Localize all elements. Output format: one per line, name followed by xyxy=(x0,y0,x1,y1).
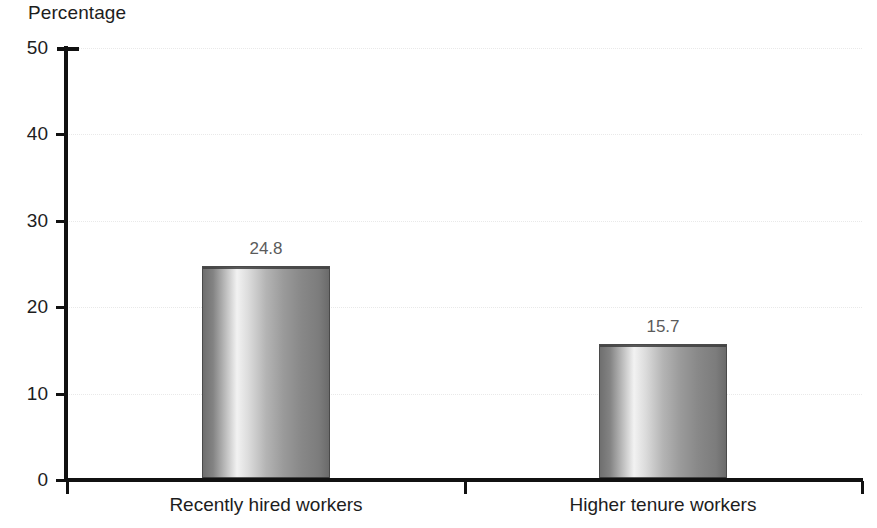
gridline xyxy=(67,307,862,308)
bar-top-edge xyxy=(203,267,329,269)
bar xyxy=(202,266,330,480)
x-axis-category-label: Higher tenure workers xyxy=(483,493,843,517)
y-axis-tick xyxy=(56,306,68,309)
gridline xyxy=(67,48,862,49)
x-axis-category-label: Recently hired workers xyxy=(86,493,446,517)
y-axis-tick-label: 20 xyxy=(27,297,48,316)
y-axis-line xyxy=(64,46,68,482)
gridline xyxy=(67,394,862,395)
plot-area xyxy=(67,48,862,480)
y-axis-tick-labels: 01020304050 xyxy=(0,0,48,528)
y-axis-tick-label: 40 xyxy=(27,124,48,143)
y-axis-tick-label: 10 xyxy=(27,384,48,403)
y-axis-tick xyxy=(56,220,68,223)
bar-value-label: 24.8 xyxy=(206,239,326,259)
x-axis-tick xyxy=(66,481,69,494)
y-axis-tick-label: 50 xyxy=(27,38,48,57)
y-axis-tick-label: 0 xyxy=(37,470,48,489)
x-axis-tick xyxy=(464,481,467,494)
y-axis-tick-label: 30 xyxy=(27,211,48,230)
y-axis-tick xyxy=(56,393,68,396)
bar xyxy=(599,344,727,480)
bar-top-edge xyxy=(600,345,726,347)
gridline xyxy=(67,134,862,135)
bar-chart: Percentage 01020304050 Recently hired wo… xyxy=(0,0,877,528)
y-axis-tick xyxy=(57,47,79,51)
x-axis-tick xyxy=(861,481,864,494)
y-axis-tick xyxy=(56,133,68,136)
gridline xyxy=(67,221,862,222)
bar-value-label: 15.7 xyxy=(603,317,723,337)
